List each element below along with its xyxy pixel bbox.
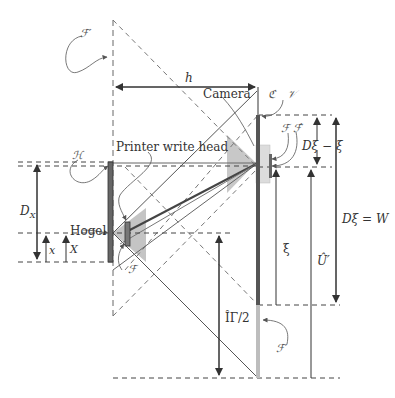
leader-H [70,160,108,183]
label-dxi-eq-w: Dξ = W [342,213,388,225]
leader-F-small [118,244,124,270]
label-script-F-small: ℱ [128,264,137,275]
leader-F-hat [272,132,297,166]
label-pi-half: ÎΓ/2 [225,312,250,324]
label-hogel: Hogel [70,225,106,237]
camera-screen [256,115,260,305]
label-dx-main: D [20,204,30,218]
label-dx-sub: X [30,211,36,220]
printer-write-head [125,222,130,246]
label-script-C: ℭ [268,89,276,100]
label-script-F-hat: ℱ ℱ̂ [281,123,303,134]
label-h: h [185,72,193,84]
camera-sensor [269,154,272,178]
diagram-canvas [0,0,395,398]
label-xi: ξ [283,243,290,255]
hologram-plate [108,162,113,262]
label-camera: Camera [203,88,251,100]
label-script-V: 𝒱 [287,89,296,100]
leader-F-top [66,36,107,73]
label-X: X [70,244,78,255]
leader-F [272,133,288,159]
label-script-F-prime-bottom: ℱ′ [276,343,288,354]
label-dx: DX [20,205,35,220]
label-printer-write-head: Printer write head [116,141,228,153]
label-script-H: ℋ [72,150,83,161]
leader-printer-head [119,152,152,220]
label-u-hat: Û′ [317,255,330,267]
leader-F-prime-bottom [263,320,288,344]
solid-ray [113,163,258,270]
screen-extension [256,305,260,378]
label-script-F-top: ℱ′ [80,28,92,39]
solid-ray [113,233,258,378]
hogel-geometry-diagram: ℱ′ h Camera ℭ 𝒱 ℋ Printer write head ℱ ℱ… [0,0,395,398]
label-x: x [49,245,55,256]
leader-C [262,100,283,116]
label-dxi-minus-xi: Dξ − ξ [302,140,343,152]
main-ray [126,163,258,232]
